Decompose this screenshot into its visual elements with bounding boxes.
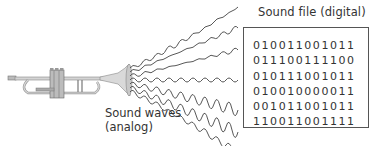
trumpet-icon <box>8 64 132 98</box>
binary-row: 010111001011 <box>253 69 365 84</box>
binary-data: 010011001011 011100111100 010111001011 0… <box>253 38 365 130</box>
binary-row: 110011001111 <box>253 114 365 129</box>
digital-file-title: Sound file (digital) <box>258 5 366 19</box>
binary-row: 001011001011 <box>253 99 365 114</box>
sound-waves-label: Sound waves (analog) <box>105 106 181 134</box>
binary-row: 010010000011 <box>253 84 365 99</box>
binary-row: 010011001011 <box>253 38 365 53</box>
binary-row: 011100111100 <box>253 53 365 68</box>
analog-to-digital-diagram: Sound file (digital) 010011001011 011100… <box>0 0 381 146</box>
sound-waves-label-line1: Sound waves <box>105 106 181 120</box>
sound-waves-label-line2: (analog) <box>105 120 181 134</box>
